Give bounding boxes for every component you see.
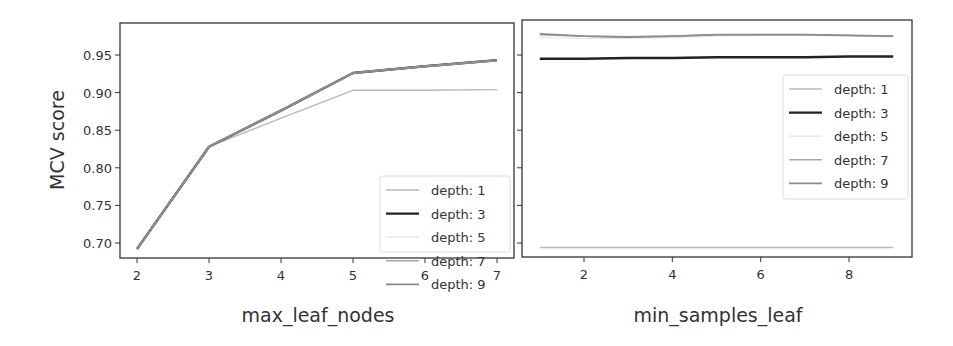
y-tick-label: 0.70 <box>83 236 112 251</box>
legend: depth: 1depth: 3depth: 5depth: 7depth: 9 <box>783 75 908 199</box>
x-tick-label: 4 <box>277 268 285 283</box>
x-tick-label: 2 <box>580 267 588 282</box>
x-tick-label: 5 <box>349 268 357 283</box>
left-subplot: 2345670.700.750.800.850.900.95depth: 1de… <box>83 23 514 292</box>
y-tick-label: 0.90 <box>83 86 112 101</box>
left-x-axis-label: max_leaf_nodes <box>241 304 394 327</box>
legend-label: depth: 1 <box>834 82 889 97</box>
legend-label: depth: 3 <box>834 106 889 121</box>
y-axis-label: MCV score <box>46 90 68 190</box>
legend-label: depth: 1 <box>431 183 486 198</box>
right-subplot: 2468depth: 1depth: 3depth: 5depth: 7dept… <box>517 20 912 282</box>
legend-label: depth: 7 <box>431 254 486 269</box>
chart-figure: 2345670.700.750.800.850.900.95depth: 1de… <box>0 0 953 346</box>
legend-label: depth: 9 <box>431 277 486 292</box>
legend-label: depth: 5 <box>834 129 889 144</box>
right-x-axis-label: min_samples_leaf <box>633 304 803 327</box>
y-tick-label: 0.80 <box>83 161 112 176</box>
x-tick-label: 8 <box>845 267 853 282</box>
x-tick-label: 7 <box>493 268 501 283</box>
x-tick-label: 6 <box>421 268 429 283</box>
x-tick-label: 2 <box>133 268 141 283</box>
x-tick-label: 3 <box>205 268 213 283</box>
x-tick-label: 6 <box>757 267 765 282</box>
y-tick-label: 0.75 <box>83 198 112 213</box>
legend-label: depth: 5 <box>431 230 486 245</box>
legend-label: depth: 9 <box>834 176 889 191</box>
legend-label: depth: 7 <box>834 153 889 168</box>
legend: depth: 1depth: 3depth: 5depth: 7depth: 9 <box>380 176 510 292</box>
x-tick-label: 4 <box>668 267 676 282</box>
legend-label: depth: 3 <box>431 207 486 222</box>
series-line-depth-3 <box>540 57 893 59</box>
y-tick-label: 0.85 <box>83 123 112 138</box>
y-tick-label: 0.95 <box>83 48 112 63</box>
